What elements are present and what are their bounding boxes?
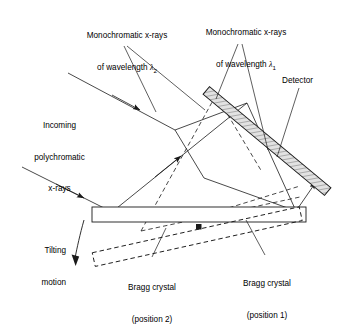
ray-lambda2-beam-base xyxy=(204,178,296,211)
label-tilting-motion: Tilting motion xyxy=(2,225,66,309)
label-bragg-pos2-line2: (position 2) xyxy=(97,315,207,326)
label-monochromatic-lambda1-line1: Monochromatic x-rays xyxy=(176,28,316,39)
label-monochromatic-lambda1-prefix: of wavelength xyxy=(216,60,269,69)
label-bragg-crystal-position-2: Bragg crystal (position 2) xyxy=(97,262,207,328)
pivot-marker xyxy=(196,224,202,230)
label-bragg-crystal-position-1: Bragg crystal (position 1) xyxy=(212,258,322,328)
leader-bragg-position-2 xyxy=(152,228,166,257)
label-incoming-line1: Incoming xyxy=(12,121,107,132)
label-monochromatic-lambda1-line2: of wavelength λ1 xyxy=(176,60,316,73)
leader-detector xyxy=(277,88,299,157)
bragg-crystal-position-1 xyxy=(92,207,306,222)
tilting-motion-arrowhead xyxy=(72,255,80,267)
label-detector: Detector xyxy=(282,76,342,87)
leader-bragg-position-1 xyxy=(246,220,265,255)
ray-lambda2-arrowhead xyxy=(155,156,181,177)
tilting-motion-arrow xyxy=(72,220,84,266)
incoming-ray-upper-arrowhead xyxy=(112,95,140,110)
label-tilting-line2: motion xyxy=(2,278,66,289)
ray-lambda2-beam-edge xyxy=(175,130,204,178)
detector-bar xyxy=(203,87,331,196)
label-bragg-pos1-line1: Bragg crystal xyxy=(212,279,322,290)
label-incoming-line2: polychromatic xyxy=(12,153,107,164)
label-bragg-pos2-line1: Bragg crystal xyxy=(97,283,207,294)
lambda-subscript-2: 2 xyxy=(153,66,156,73)
label-incoming-polychromatic-xrays: Incoming polychromatic x-rays xyxy=(12,100,107,216)
label-monochromatic-lambda2-prefix: of wavelength xyxy=(97,63,150,72)
label-bragg-pos1-line2: (position 1) xyxy=(212,311,322,322)
label-incoming-line3: x-rays xyxy=(12,184,107,195)
label-tilting-line1: Tilting xyxy=(2,246,66,257)
lambda-subscript-1: 1 xyxy=(272,63,275,70)
